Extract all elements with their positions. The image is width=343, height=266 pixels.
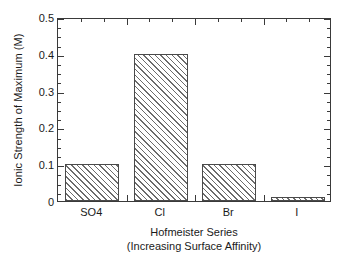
x-axis-title-line2: (Increasing Surface Affinity) (57, 239, 331, 253)
y-axis-minor-tick (58, 194, 61, 195)
y-axis-minor-tick (58, 65, 61, 66)
y-axis-minor-tick (58, 139, 61, 140)
y-axis-major-tick (58, 166, 64, 167)
bar-br (202, 164, 256, 201)
y-axis-minor-tick (327, 175, 330, 176)
y-axis-major-tick (58, 56, 64, 57)
y-axis-minor-tick (327, 148, 330, 149)
x-axis-minor-tick (104, 19, 105, 22)
y-axis-major-tick (58, 129, 64, 130)
x-axis-major-tick (195, 19, 196, 25)
y-axis-minor-tick (327, 47, 330, 48)
y-axis-minor-tick (327, 139, 330, 140)
y-axis-major-tick (58, 93, 64, 94)
bar-chart-figure: Ionic Strength of Maximum (M) 00.10.20.3… (0, 0, 343, 266)
x-axis-minor-tick (149, 19, 150, 22)
bar-so4 (65, 164, 119, 201)
x-axis-minor-tick (286, 19, 287, 22)
y-axis-tick-label: 0.3 (14, 86, 54, 98)
y-axis-tick-label: 0 (14, 196, 54, 208)
x-axis-minor-tick (81, 19, 82, 22)
y-axis-minor-tick (58, 83, 61, 84)
y-axis-minor-tick (58, 185, 61, 186)
y-axis-minor-tick (327, 37, 330, 38)
y-axis-minor-tick (327, 120, 330, 121)
x-axis-major-tick (127, 19, 128, 25)
y-axis-minor-tick (58, 47, 61, 48)
y-axis-major-tick (324, 166, 330, 167)
y-axis-major-tick (324, 93, 330, 94)
y-axis-tick-label: 0.4 (14, 49, 54, 61)
y-axis-minor-tick (58, 37, 61, 38)
y-axis-minor-tick (58, 74, 61, 75)
bar-cl (134, 54, 188, 201)
x-axis-tick-label-i: I (295, 206, 298, 218)
x-axis-major-tick (264, 19, 265, 25)
plot-inner (58, 19, 330, 201)
x-axis-minor-tick (241, 19, 242, 22)
y-axis-minor-tick (327, 74, 330, 75)
x-axis-minor-tick (172, 19, 173, 22)
y-axis-title: Ionic Strength of Maximum (M) (12, 10, 24, 210)
y-axis-minor-tick (58, 28, 61, 29)
y-axis-minor-tick (58, 175, 61, 176)
x-axis-major-tick (195, 195, 196, 201)
y-axis-minor-tick (58, 102, 61, 103)
x-axis-tick-label-cl: Cl (155, 206, 165, 218)
y-axis-major-tick (324, 56, 330, 57)
plot-area (57, 18, 331, 202)
y-axis-major-tick (324, 19, 330, 20)
y-axis-minor-tick (327, 65, 330, 66)
y-axis-minor-tick (327, 194, 330, 195)
y-axis-minor-tick (58, 157, 61, 158)
x-axis-minor-tick (309, 19, 310, 22)
x-axis-title-line1: Hofmeister Series (57, 225, 331, 239)
bar-i (271, 197, 325, 201)
x-axis-tick-label-so4: SO4 (80, 206, 102, 218)
x-axis-title: Hofmeister Series (Increasing Surface Af… (57, 225, 331, 253)
y-axis-tick-label: 0.1 (14, 159, 54, 171)
y-axis-minor-tick (327, 185, 330, 186)
y-axis-minor-tick (58, 148, 61, 149)
y-axis-minor-tick (327, 157, 330, 158)
x-axis-minor-tick (218, 19, 219, 22)
y-axis-tick-label: 0.2 (14, 122, 54, 134)
x-axis-major-tick (264, 195, 265, 201)
y-axis-minor-tick (327, 83, 330, 84)
y-axis-minor-tick (327, 28, 330, 29)
y-axis-major-tick (324, 129, 330, 130)
y-axis-tick-label: 0.5 (14, 12, 54, 24)
x-axis-major-tick (127, 195, 128, 201)
y-axis-minor-tick (58, 120, 61, 121)
y-axis-major-tick (58, 19, 64, 20)
x-axis-tick-label-br: Br (223, 206, 234, 218)
y-axis-minor-tick (327, 102, 330, 103)
y-axis-minor-tick (58, 111, 61, 112)
y-axis-minor-tick (327, 111, 330, 112)
